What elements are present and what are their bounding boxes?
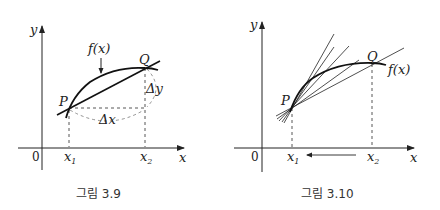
point-p-label: P	[58, 94, 68, 109]
figure-3-9: y x 0 x1 x2 Δx Δy P Q f(x) 그림 3.9	[18, 22, 187, 201]
figure-3-10: y x 0 x1 x2 P Q f(x) 그림 3.10	[234, 17, 418, 201]
x-axis-label: x	[179, 150, 187, 165]
point-q-label: Q	[139, 52, 150, 67]
x-axis-label: x	[410, 150, 418, 165]
y-axis-label: y	[249, 17, 258, 32]
x2-label: x2	[367, 149, 379, 166]
diagram-canvas: y x 0 x1 x2 Δx Δy P Q f(x) 그림 3.9 y	[0, 0, 440, 210]
x2-label: x2	[140, 149, 152, 166]
function-curve	[66, 68, 158, 118]
function-label: f(x)	[87, 41, 110, 56]
x1-label: x1	[287, 149, 299, 166]
origin-label: 0	[251, 150, 259, 164]
figure-caption: 그림 3.10	[301, 187, 354, 201]
function-label: f(x)	[387, 62, 410, 77]
x1-label: x1	[64, 149, 76, 166]
delta-x-label: Δx	[98, 112, 116, 127]
origin-label: 0	[32, 150, 40, 164]
delta-y-label: Δy	[145, 81, 163, 96]
point-q-label: Q	[367, 49, 378, 64]
y-axis-label: y	[29, 22, 38, 37]
secant-line-3	[279, 46, 349, 121]
point-p-label: P	[280, 93, 290, 108]
figure-caption: 그림 3.9	[76, 187, 121, 201]
